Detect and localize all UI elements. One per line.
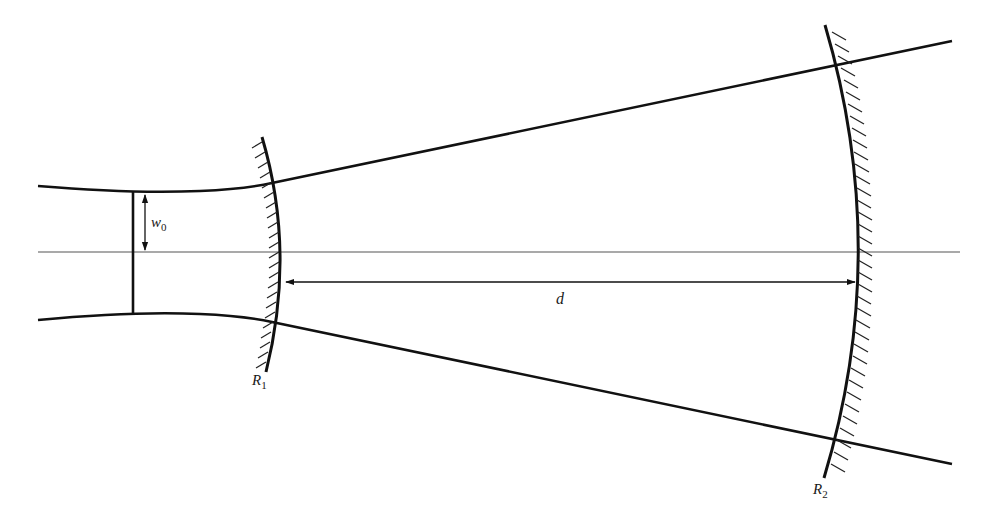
mirror-2-label: R2 xyxy=(812,481,828,500)
waist-label: w0 xyxy=(151,214,167,233)
beam-lower-envelope xyxy=(38,313,952,464)
beam-upper-envelope xyxy=(38,41,952,192)
mirror-1-label: R1 xyxy=(251,372,267,391)
distance-label: d xyxy=(556,290,565,307)
resonator-diagram: w0 R xyxy=(0,0,987,524)
mirror-1 xyxy=(252,137,280,372)
